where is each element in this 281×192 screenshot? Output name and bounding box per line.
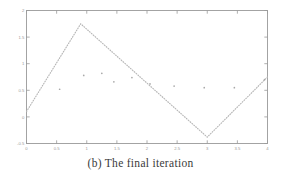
x-tick-label: 1 <box>86 146 89 151</box>
data-point-marker <box>149 83 151 85</box>
y-tick-label: -0.5 <box>17 141 25 146</box>
data-point-marker <box>264 79 266 81</box>
fitted-curve-path <box>27 24 268 137</box>
x-tick-label: 1.5 <box>114 146 120 151</box>
data-point-marker <box>83 75 85 77</box>
y-tick-label: 1 <box>22 61 25 66</box>
axes-frame <box>27 11 268 144</box>
x-axis-ticks <box>27 11 268 144</box>
data-point-marker <box>173 85 175 87</box>
data-point-marker <box>59 88 61 90</box>
data-point-marker <box>234 87 236 89</box>
data-point-marker <box>101 72 103 74</box>
x-tick-label: 0 <box>25 146 28 151</box>
figure-caption: (b) The final iteration <box>0 157 281 169</box>
x-axis-tick-labels: 00.511.522.533.54 <box>25 146 269 151</box>
fitted-curve-dotted-line <box>27 24 268 137</box>
x-tick-label: 4 <box>266 146 269 151</box>
y-tick-label: 2 <box>22 8 25 13</box>
scatter-data-points <box>59 72 266 90</box>
y-tick-label: 0 <box>22 115 25 120</box>
y-axis-tick-labels: -0.500.511.52 <box>17 8 25 146</box>
y-axis-ticks <box>27 11 268 144</box>
x-tick-label: 0.5 <box>54 146 60 151</box>
plot-area: 00.511.522.533.54 -0.500.511.52 <box>0 0 281 152</box>
y-tick-label: 0.5 <box>18 88 24 93</box>
x-tick-label: 3 <box>206 146 209 151</box>
data-point-marker <box>203 87 205 89</box>
x-tick-label: 2 <box>146 146 149 151</box>
data-point-marker <box>113 81 115 83</box>
plot-svg: 00.511.522.533.54 -0.500.511.52 <box>0 0 281 152</box>
figure-panel: 00.511.522.533.54 -0.500.511.52 (b) The … <box>0 0 281 192</box>
data-point-marker <box>131 77 133 79</box>
x-tick-label: 2.5 <box>174 146 180 151</box>
y-tick-label: 1.5 <box>18 35 24 40</box>
x-tick-label: 3.5 <box>234 146 240 151</box>
